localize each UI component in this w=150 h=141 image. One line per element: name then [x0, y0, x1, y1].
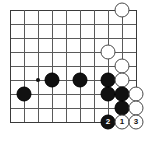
white-stone-col10-r8[interactable]: [129, 101, 144, 116]
black-stone-left-a[interactable]: [45, 73, 60, 88]
grid-line-vertical-6: [94, 10, 95, 122]
go-board-diagram: 213: [0, 0, 150, 141]
star-point-left-icon: [36, 78, 40, 82]
white-stone-col9-r6[interactable]: [115, 73, 130, 88]
grid-line-vertical-2: [38, 10, 39, 122]
black-stone-wall-mid[interactable]: [101, 87, 116, 102]
grid-line-vertical-1: [24, 10, 25, 122]
black-stone-wall-low[interactable]: [115, 101, 130, 116]
grid-line-horizontal-1: [10, 24, 136, 25]
grid-line-horizontal-3: [10, 52, 136, 53]
black-stone-left-b[interactable]: [73, 73, 88, 88]
white-stone-upper[interactable]: [101, 45, 116, 60]
black-stone-wall-mid-right[interactable]: [115, 87, 130, 102]
white-stone-col10-r7[interactable]: [129, 87, 144, 102]
grid-line-vertical-3: [52, 10, 53, 122]
black-stone-wall-top[interactable]: [101, 73, 116, 88]
black-stone-far-left[interactable]: [17, 87, 32, 102]
black-move-2[interactable]: 2: [101, 115, 116, 130]
white-move-3[interactable]: 3: [129, 115, 144, 130]
move-number-label: 2: [106, 118, 110, 126]
white-stone-col9-r5[interactable]: [115, 59, 130, 74]
grid-line-vertical-5: [80, 10, 81, 122]
grid-line-vertical-4: [66, 10, 67, 122]
grid-line-vertical-7: [108, 10, 109, 122]
grid-line-vertical-0: [10, 10, 11, 122]
grid-line-horizontal-2: [10, 38, 136, 39]
white-stone-top-right[interactable]: [115, 3, 130, 18]
move-number-label: 1: [120, 118, 124, 126]
move-number-label: 3: [134, 118, 138, 126]
white-move-1[interactable]: 1: [115, 115, 130, 130]
